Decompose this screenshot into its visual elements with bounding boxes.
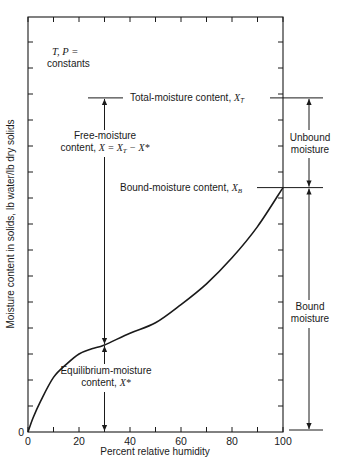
free-moisture-line1: Free-moisture (74, 130, 137, 141)
bound-moisture-content-label: Bound-moisture content, XB (120, 182, 243, 195)
x-tick-label: 80 (226, 435, 238, 447)
x-tick-label: 100 (274, 435, 292, 447)
y-axis-label: Moisture content in solids, lb water/lb … (5, 120, 16, 329)
params-label-line2: constants (47, 58, 90, 69)
moisture-isotherm-figure: 0204060801000 T, P = constants Total-moi… (0, 0, 345, 465)
bound-arrowhead-down (306, 423, 311, 429)
y-tick-label: 0 (18, 426, 24, 438)
params-label-line1: T, P = (52, 46, 78, 57)
plot-axes: 0204060801000 (18, 17, 292, 447)
x-tick-label: 20 (73, 435, 85, 447)
equilibrium-arrowhead-down (102, 425, 107, 431)
bound-line2: moisture (291, 313, 330, 324)
isotherm-curve (28, 188, 283, 432)
free-moisture-line2: content, X = XT − X* (60, 142, 149, 155)
free-moisture-arrowhead-up (102, 99, 107, 105)
unbound-arrowhead-up (306, 99, 311, 105)
total-moisture-label: Total-moisture content, XT (130, 92, 245, 104)
unbound-line1: Unbound (290, 132, 331, 143)
x-tick-label: 0 (25, 435, 31, 447)
bound-arrowhead-up (306, 189, 311, 195)
equilibrium-line2: content, X* (81, 377, 130, 388)
free-moisture-arrowhead-down (102, 338, 107, 344)
bound-line1: Bound (296, 301, 325, 312)
equilibrium-line1: Equilibrium-moisture (60, 365, 152, 376)
isotherm-chart: 0204060801000 T, P = constants Total-moi… (0, 0, 345, 465)
isotherm-curve-path (28, 188, 283, 432)
unbound-line2: moisture (291, 144, 330, 155)
unbound-arrowhead-down (306, 181, 311, 187)
equilibrium-arrowhead-up (102, 346, 107, 352)
x-axis-label: Percent relative humidity (100, 446, 210, 457)
